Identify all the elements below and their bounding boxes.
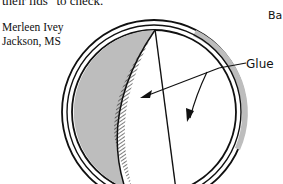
glue-crescent bbox=[74, 30, 155, 184]
glue-label: Glue bbox=[246, 57, 274, 71]
divider-line bbox=[155, 29, 176, 184]
jar-lid-illustration bbox=[0, 0, 283, 184]
corner-label: Ba bbox=[268, 9, 282, 22]
